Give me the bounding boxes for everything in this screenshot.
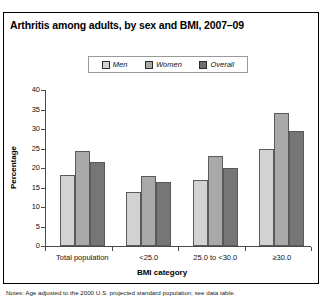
bar-women-3 (274, 113, 289, 246)
plot-area (45, 90, 311, 246)
chart-figure: Arthritis among adults, by sex and BMI, … (0, 0, 324, 299)
legend-swatch-women (145, 61, 153, 69)
y-tick-label-0: 0 (20, 242, 40, 250)
x-tick-1 (112, 247, 113, 251)
x-tick-0 (45, 247, 46, 251)
bar-women-1 (141, 176, 156, 246)
y-tick-label-40: 40 (20, 86, 40, 94)
y-tick-label-15: 15 (20, 184, 40, 192)
x-tick-3 (245, 247, 246, 251)
bar-group-2 (193, 90, 238, 246)
y-tick-label-30: 30 (20, 125, 40, 133)
legend-label-overall: Overall (210, 60, 234, 69)
bar-women-2 (208, 156, 223, 246)
y-tick-label-5: 5 (20, 223, 40, 231)
x-tick-2 (178, 247, 179, 251)
chart-footnote: Notes: Age adjusted to the 2000 U.S. pro… (6, 289, 318, 299)
bar-group-3 (259, 90, 304, 246)
y-axis-title: Percentage (9, 131, 18, 205)
x-tick-4 (311, 247, 312, 251)
bar-men-2 (193, 180, 208, 246)
bar-overall-2 (223, 168, 238, 246)
x-axis-title: BMI category (0, 268, 324, 277)
bar-men-3 (259, 149, 274, 247)
bar-overall-0 (90, 162, 105, 246)
y-tick-label-25: 25 (20, 145, 40, 153)
y-tick-label-35: 35 (20, 106, 40, 114)
y-tick-label-20: 20 (20, 164, 40, 172)
legend-swatch-men (102, 61, 110, 69)
legend-item-women: Women (145, 60, 182, 69)
chart-title: Arthritis among adults, by sex and BMI, … (10, 19, 244, 31)
legend-label-men: Men (113, 60, 128, 69)
bar-men-1 (126, 192, 141, 246)
bar-group-0 (60, 90, 105, 246)
bar-overall-3 (289, 131, 304, 246)
y-axis-title-wrap: Percentage (6, 135, 18, 205)
legend-label-women: Women (156, 60, 182, 69)
bar-men-0 (60, 175, 75, 246)
legend-swatch-overall (199, 61, 207, 69)
y-tick-label-10: 10 (20, 203, 40, 211)
legend-item-men: Men (102, 60, 128, 69)
x-tick-label-3: ≥30.0 (237, 253, 324, 262)
bar-overall-1 (156, 182, 171, 246)
bar-women-0 (75, 151, 90, 246)
chart-legend: Men Women Overall (88, 56, 248, 73)
legend-item-overall: Overall (199, 60, 234, 69)
bar-group-1 (126, 90, 171, 246)
